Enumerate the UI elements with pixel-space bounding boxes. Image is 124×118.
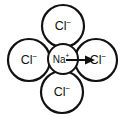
chloride-right-charge: − [102,52,107,61]
sodium-charge: + [66,52,70,59]
chloride-top-species: Cl [55,19,67,33]
sodium-species: Na [53,54,66,65]
chloride-left-charge: − [33,52,38,61]
ion-chloride-bottom: Cl− [41,71,83,113]
chloride-left-species: Cl [21,53,33,67]
ionic-bonding-diagram: Cl− Cl− Cl− Cl− Na+ [0,0,124,118]
chloride-bottom-species: Cl [54,85,66,99]
diagram-svg: Cl− Cl− Cl− Cl− Na+ [0,0,124,118]
chloride-top-charge: − [67,18,72,27]
chloride-bottom-charge: − [66,84,71,93]
ion-chloride-top: Cl− [42,5,84,47]
ion-chloride-left: Cl− [8,39,50,81]
